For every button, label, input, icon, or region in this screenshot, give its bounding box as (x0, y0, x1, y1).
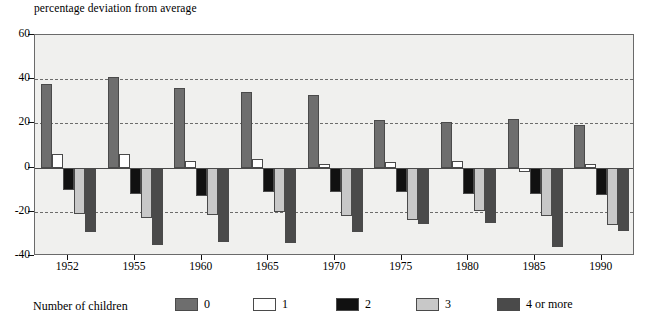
x-tick-label-1965: 1965 (237, 261, 297, 273)
bar (607, 168, 618, 225)
x-tick-label-1990: 1990 (571, 261, 631, 273)
bar (74, 168, 85, 214)
x-tick-label-1960: 1960 (171, 261, 231, 273)
bar (508, 119, 519, 168)
x-tick-label-1952: 1952 (37, 261, 97, 273)
legend-label: 1 (282, 298, 288, 311)
bar (530, 168, 541, 195)
legend-title: Number of children (33, 299, 128, 314)
bar (85, 168, 96, 232)
bar (252, 159, 263, 168)
legend-swatch-icon (336, 298, 359, 311)
legend-swatch-icon (175, 298, 198, 311)
legend-swatch-icon (253, 298, 276, 311)
bar (418, 168, 429, 224)
gridline-20 (35, 123, 633, 124)
legend-label: 0 (204, 298, 210, 311)
chart-axis-title: percentage deviation from average (34, 2, 197, 14)
bar (585, 164, 596, 167)
bar (207, 168, 218, 216)
bar (485, 168, 496, 223)
bar (407, 168, 418, 220)
plot-area (34, 34, 634, 255)
x-tick-label-1955: 1955 (104, 261, 164, 273)
y-tick-label-0: 0 (0, 161, 30, 173)
y-tick-label-20: 20 (0, 116, 30, 128)
bar (119, 154, 130, 167)
legend-label: 2 (365, 298, 371, 311)
bar (341, 168, 352, 217)
y-tick-label--40: -40 (0, 249, 30, 261)
x-tick-label-1975: 1975 (371, 261, 431, 273)
bar (596, 168, 607, 196)
x-tick-label-1985: 1985 (504, 261, 564, 273)
bar (130, 168, 141, 195)
bar (63, 168, 74, 190)
chart-figure: percentage deviation from average 604020… (0, 0, 650, 328)
bar (385, 162, 396, 168)
bar (308, 95, 319, 168)
y-tick-label--20: -20 (0, 205, 30, 217)
x-tick-label-1970: 1970 (304, 261, 364, 273)
bar (330, 168, 341, 192)
y-tick-label-40: 40 (0, 72, 30, 84)
bar (574, 125, 585, 168)
legend-swatch-icon (497, 298, 520, 311)
bar (374, 120, 385, 168)
bar (441, 122, 452, 167)
y-tick-label-60: 60 (0, 28, 30, 40)
bar (241, 92, 252, 167)
bar (196, 168, 207, 197)
bar (618, 168, 629, 231)
bar (519, 168, 530, 172)
bar (185, 161, 196, 168)
bar (319, 164, 330, 167)
bar (285, 168, 296, 243)
chart-legend: Number of children 01234 or more (0, 296, 650, 320)
bar (41, 84, 52, 168)
bar (108, 77, 119, 168)
bar (274, 168, 285, 212)
bar (474, 168, 485, 211)
bar (552, 168, 563, 248)
bar (541, 168, 552, 217)
legend-label: 4 or more (526, 298, 573, 311)
bar (263, 168, 274, 192)
bar (174, 88, 185, 168)
bar (463, 168, 474, 195)
bar (218, 168, 229, 242)
bar (152, 168, 163, 245)
x-tick-label-1980: 1980 (437, 261, 497, 273)
bar (452, 161, 463, 168)
legend-swatch-icon (416, 298, 439, 311)
bar (396, 168, 407, 192)
legend-label: 3 (445, 298, 451, 311)
bar (141, 168, 152, 219)
bar (352, 168, 363, 232)
gridline-40 (35, 79, 633, 80)
bar (52, 154, 63, 167)
